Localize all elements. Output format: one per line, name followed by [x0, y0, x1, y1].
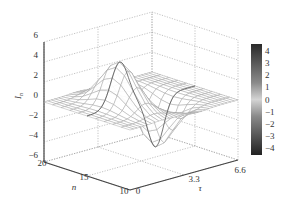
- colorbar-tick-label: 2: [265, 70, 270, 80]
- tau-axis-line: [130, 160, 238, 190]
- n-tick-label: 20: [38, 158, 48, 168]
- z-tick-label: 4: [34, 50, 39, 60]
- gridline: [98, 147, 184, 175]
- tau-tick-label: 6.6: [234, 165, 246, 175]
- z-tick-label: 6: [34, 30, 39, 40]
- colorbar-tick-label: −3: [265, 131, 275, 141]
- z-tick-label: 0: [34, 90, 39, 100]
- tau-axis-label: τ: [198, 183, 202, 193]
- colorbar-tick-labels: 43210−1−2−3−4: [265, 46, 275, 153]
- colorbar-tick-label: −4: [265, 143, 275, 153]
- n-axis-label: n: [72, 182, 77, 192]
- surface-plot: 6 4 2 0 −2 −4 −6 In 20 15 10 n 0 3.3 6.6…: [0, 0, 290, 206]
- tau-tick-labels: 0 3.3 6.6: [136, 165, 246, 196]
- colorbar-tick-label: 1: [265, 82, 270, 92]
- surface-mesh: [44, 62, 238, 147]
- z-axis-label: In: [13, 93, 24, 100]
- tau-tick-label: 0: [136, 186, 141, 196]
- colorbar-tick-label: −2: [265, 119, 275, 129]
- z-tick-labels: 6 4 2 0 −2 −4 −6: [28, 30, 38, 160]
- z-tick-label: −2: [28, 110, 38, 120]
- colorbar-tick-label: 4: [265, 46, 270, 56]
- n-tick-label: 15: [80, 172, 90, 182]
- z-tick-label: −4: [28, 130, 38, 140]
- colorbar-tick-label: 3: [265, 58, 270, 68]
- colorbar-tick-label: 0: [265, 95, 270, 105]
- colorbar: [251, 44, 262, 155]
- z-tick-label: 2: [34, 70, 39, 80]
- n-tick-label: 10: [120, 186, 130, 196]
- colorbar-tick-label: −1: [265, 107, 275, 117]
- n-tick-labels: 20 15 10: [38, 158, 130, 196]
